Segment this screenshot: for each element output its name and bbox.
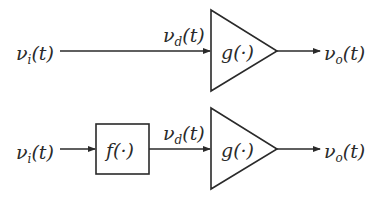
row1-amp-label: g(·) [221, 41, 254, 63]
row1-input-label: νi(t) [16, 42, 54, 67]
row1-vd-label: νd(t) [163, 24, 205, 49]
row2-amp-label: g(·) [221, 139, 254, 161]
row2-block-label: f(·) [104, 139, 134, 161]
row-1-direct: νi(t) νd(t) g(·) νo(t) [16, 10, 365, 91]
block-diagram: νi(t) νd(t) g(·) νo(t) νi(t) f(·) νd(t) … [0, 0, 383, 203]
row2-output-label: νo(t) [324, 140, 365, 165]
row-2-predistorted: νi(t) f(·) νd(t) g(·) νo(t) [16, 108, 365, 189]
row2-input-label: νi(t) [16, 141, 54, 166]
row2-vd-label: νd(t) [163, 122, 205, 147]
row1-output-label: νo(t) [324, 42, 365, 67]
